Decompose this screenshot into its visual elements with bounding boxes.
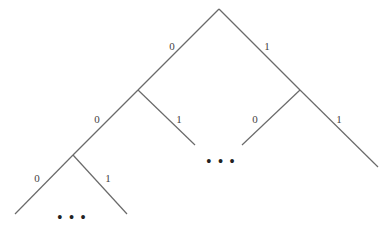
edge-root-1 — [219, 9, 300, 90]
edge-n0-0 — [73, 90, 138, 155]
edge-label-n0-1: 1 — [176, 113, 182, 125]
middle-ellipsis: • • • — [206, 153, 236, 170]
edge-n00-1 — [73, 155, 127, 214]
edge-n1-1 — [300, 90, 378, 167]
binary-tree-diagram: 01010101 • • •• • • — [0, 0, 392, 231]
edge-n1-0 — [242, 90, 300, 145]
edge-label-n1-0: 0 — [252, 113, 258, 125]
edge-label-n00-0: 0 — [34, 172, 40, 184]
edge-label-root-1: 1 — [264, 40, 270, 52]
bottom-ellipsis: • • • — [57, 209, 87, 226]
tree-edges — [15, 9, 378, 214]
continuation-ellipses: • • •• • • — [57, 153, 236, 226]
edge-n0-1 — [138, 90, 195, 145]
edge-label-n00-1: 1 — [105, 172, 111, 184]
edge-n00-0 — [15, 155, 73, 214]
edge-root-0 — [138, 9, 219, 90]
edge-label-n1-1: 1 — [336, 113, 342, 125]
edge-label-n0-0: 0 — [94, 113, 100, 125]
edge-label-root-0: 0 — [169, 40, 175, 52]
